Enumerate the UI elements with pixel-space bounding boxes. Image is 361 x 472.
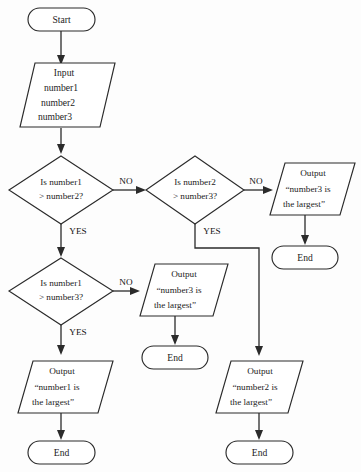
node-output2-line3: the largest” — [230, 397, 272, 407]
flowchart-svg: Start Input number1 number2 number3 Is n… — [0, 0, 361, 472]
node-decision2-line1: Is number2 — [174, 177, 216, 187]
node-decision3-line2: > number3? — [39, 292, 83, 302]
edge-label-decision3-yes: YES — [69, 327, 87, 337]
node-output2-line2: “number2 is — [232, 382, 278, 392]
edge-label-decision2-yes: YES — [203, 226, 221, 236]
node-end-middle[interactable]: End — [142, 346, 208, 369]
edge-label-decision1-yes: YES — [69, 226, 87, 236]
node-output3b-line2: “number3 is — [156, 285, 202, 295]
connector-output3a-to-end-topright — [301, 215, 309, 245]
node-output3b-line3: the largest” — [154, 300, 196, 310]
node-output1-line1: Output — [49, 366, 75, 376]
node-output-number2[interactable]: Output “number2 is the largest” — [216, 361, 303, 413]
connector-input-to-decision1 — [57, 128, 65, 154]
node-decision2-line2: > number3? — [173, 191, 217, 201]
node-start-label: Start — [52, 14, 70, 25]
node-output1-line3: the largest” — [32, 397, 74, 407]
node-end-middle-label: End — [167, 352, 183, 363]
node-end-bottomleft-label: End — [54, 447, 70, 458]
connector-output3b-to-end-middle — [171, 316, 179, 345]
node-input[interactable]: Input number1 number2 number3 — [20, 63, 115, 127]
node-output-number3-topright[interactable]: Output “number3 is the largest” — [270, 163, 355, 215]
node-input-line2: number1 — [44, 82, 78, 93]
node-decision2[interactable]: Is number2 > number3? — [146, 156, 244, 224]
node-output3a-line2: “number3 is — [285, 184, 331, 194]
connector-decision1-no-to-decision2 — [113, 186, 146, 194]
node-output-number3-middle[interactable]: Output “number3 is the largest” — [140, 264, 228, 316]
connector-decision1-yes-to-decision3 — [57, 224, 65, 257]
node-decision1[interactable]: Is number1 > number2? — [9, 156, 113, 224]
node-end-bottomleft[interactable]: End — [28, 441, 95, 464]
node-output3a-line1: Output — [300, 168, 326, 178]
node-input-line1: Input — [54, 67, 75, 78]
node-end-topright[interactable]: End — [272, 246, 338, 269]
node-decision3[interactable]: Is number1 > number3? — [9, 258, 113, 325]
node-output3a-line3: the largest” — [283, 199, 325, 209]
connector-decision2-no-to-output3a — [244, 186, 273, 194]
node-output2-line1: Output — [247, 366, 273, 376]
node-decision1-line2: > number2? — [39, 191, 83, 201]
connector-output2-to-end-bottomright — [255, 413, 263, 440]
node-input-line4: number3 — [38, 111, 72, 122]
node-output3b-line1: Output — [171, 269, 197, 279]
connector-output1-to-end-bottomleft — [57, 413, 65, 440]
node-end-topright-label: End — [297, 252, 313, 263]
connector-start-to-input — [57, 31, 65, 65]
node-decision1-line1: Is number1 — [40, 177, 82, 187]
node-output-number1[interactable]: Output “number1 is the largest” — [18, 361, 113, 413]
node-start[interactable]: Start — [28, 8, 95, 31]
edge-label-decision2-no: NO — [249, 176, 263, 186]
flowchart-canvas: g — [0, 0, 361, 472]
connector-decision3-yes-to-output1 — [57, 325, 65, 355]
edge-label-decision1-no: NO — [119, 176, 133, 186]
node-output1-line2: “number1 is — [34, 382, 80, 392]
node-input-line3: number2 — [41, 97, 75, 108]
edge-label-decision3-no: NO — [119, 277, 133, 287]
connector-decision3-no-to-output3b — [113, 287, 140, 295]
node-end-bottomright-label: End — [252, 447, 268, 458]
node-end-bottomright[interactable]: End — [226, 441, 293, 464]
node-decision3-line1: Is number1 — [40, 278, 82, 288]
